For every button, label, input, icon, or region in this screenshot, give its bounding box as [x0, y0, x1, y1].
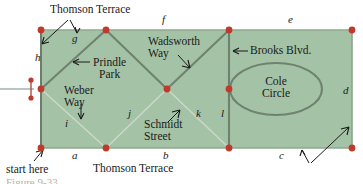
- weber-way-line2: Way: [64, 96, 85, 108]
- vertex-top-right[interactable]: [349, 27, 356, 34]
- vertex-top-brooks[interactable]: [226, 27, 233, 34]
- label-thomson-terrace-bottom: Thomson Terrace: [93, 163, 173, 175]
- label-cole-circle: ColeCircle: [253, 76, 299, 99]
- label-prindle-park: PrindlePark: [93, 57, 126, 80]
- edge-label-a: a: [72, 150, 78, 161]
- vertex-mid-center[interactable]: [164, 86, 171, 93]
- weber-way-line1: Weber: [64, 84, 94, 96]
- label-brooks-blvd: Brooks Blvd.: [250, 45, 311, 57]
- edge-label-c: c: [279, 150, 284, 161]
- edge-label-d: d: [343, 85, 349, 96]
- vertex-top-middle[interactable]: [103, 27, 110, 34]
- vertex-bottom-one[interactable]: [103, 145, 110, 152]
- wadsworth-way-line2: Way: [148, 47, 169, 59]
- label-thomson-terrace-top: Thomson Terrace: [50, 4, 130, 16]
- edge-label-b: b: [163, 150, 169, 161]
- edge-label-e: e: [288, 14, 293, 25]
- edge-label-l: l: [221, 108, 224, 119]
- figure-container: Thomson Terrace PrindlePark WadsworthWay…: [0, 0, 363, 184]
- wadsworth-way-line1: Wadsworth: [148, 35, 200, 47]
- edge-label-h: h: [35, 52, 41, 63]
- label-wadsworth-way: WadsworthWay: [148, 36, 200, 59]
- prindle-park-line1: Prindle: [93, 56, 126, 68]
- prindle-park-line2: Park: [99, 68, 120, 80]
- cole-circle-line2: Circle: [262, 87, 290, 99]
- edge-label-g: g: [72, 33, 78, 44]
- cole-circle-line1: Cole: [265, 75, 287, 87]
- vertex-bottom-right[interactable]: [349, 145, 356, 152]
- label-schmidt-street: SchmidtStreet: [144, 119, 182, 142]
- edge-label-i: i: [65, 118, 68, 129]
- edge-label-f: f: [162, 14, 165, 25]
- graph-diagram: [0, 0, 363, 184]
- vertex-mid-brooks[interactable]: [226, 86, 233, 93]
- vertex-marker-bottom[interactable]: [28, 95, 33, 100]
- schmidt-street-line2: Street: [144, 130, 171, 142]
- label-weber-way: WeberWay: [64, 85, 94, 108]
- vertex-bottom-two[interactable]: [226, 145, 233, 152]
- edge-label-k: k: [196, 108, 201, 119]
- vertex-mid-left[interactable]: [38, 86, 45, 93]
- schmidt-street-line1: Schmidt: [144, 118, 182, 130]
- vertex-marker-top[interactable]: [28, 77, 33, 82]
- figure-caption: Figure 9-33: [6, 177, 58, 184]
- vertex-bottom-left[interactable]: [38, 145, 45, 152]
- edge-label-j: j: [128, 108, 131, 119]
- label-start-here: start here: [6, 164, 48, 176]
- vertex-top-left[interactable]: [38, 27, 45, 34]
